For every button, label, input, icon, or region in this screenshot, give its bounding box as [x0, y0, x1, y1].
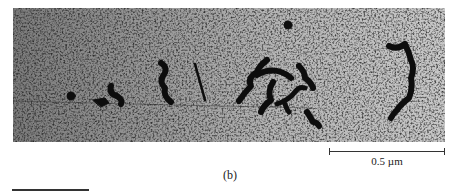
figure-panel: 0.5 µm (b) — [0, 0, 459, 192]
scale-bar-label: 0.5 µm — [329, 155, 445, 167]
panel-label: (b) — [200, 168, 260, 183]
micrograph-svg — [13, 8, 445, 142]
micrograph-image — [13, 8, 445, 142]
scale-bar — [329, 151, 445, 152]
footnote-rule — [12, 189, 89, 191]
